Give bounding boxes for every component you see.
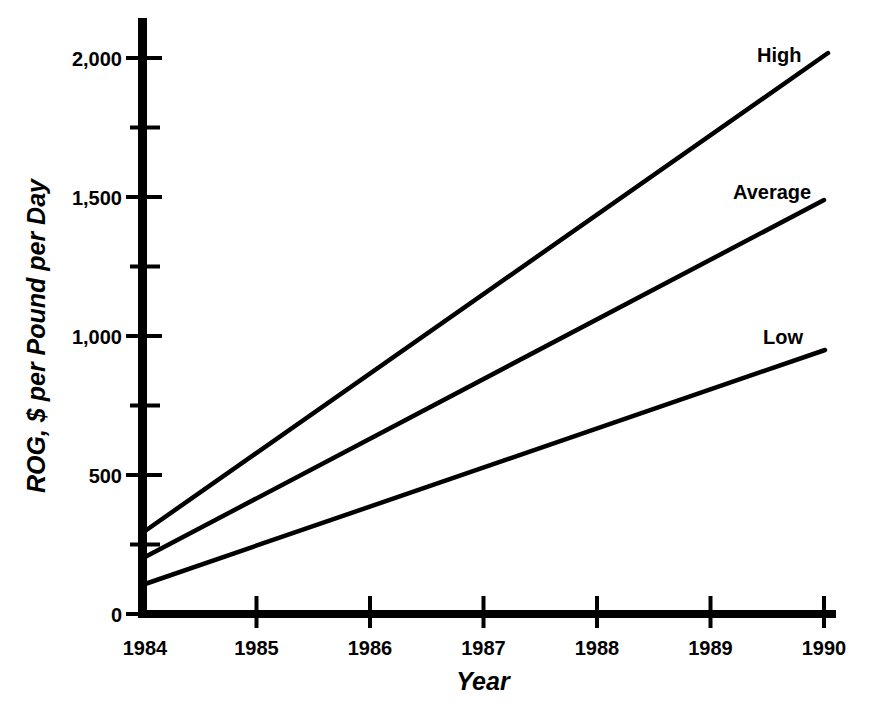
x-axis-title: Year	[456, 667, 511, 695]
x-tick-label-1987: 1987	[461, 637, 506, 659]
x-axis-line	[138, 610, 836, 618]
series-label-low: Low	[763, 326, 803, 348]
y-tick-label-1500: 1,500	[72, 187, 122, 209]
series-line-low	[145, 350, 825, 584]
series-label-average: Average	[733, 181, 811, 203]
y-axis-title: ROG, $ per Pound per Day	[22, 178, 50, 493]
y-axis-line	[138, 18, 147, 617]
x-tick-label-1984: 1984	[123, 637, 168, 659]
x-tick-label-1989: 1989	[688, 637, 733, 659]
chart-container: 2,000 1,500 1,000 500 0 1984 1985 1986 1…	[0, 0, 874, 710]
x-tick-label-1988: 1988	[575, 637, 620, 659]
x-tick-label-1986: 1986	[348, 637, 393, 659]
series-line-average	[145, 200, 824, 557]
x-tick-label-1990: 1990	[802, 637, 847, 659]
y-tick-label-1000: 1,000	[72, 326, 122, 348]
series-label-high: High	[757, 44, 801, 66]
y-tick-label-0: 0	[111, 604, 122, 626]
y-tick-label-2000: 2,000	[72, 48, 122, 70]
x-tick-label-1985: 1985	[234, 637, 279, 659]
y-tick-label-500: 500	[89, 465, 122, 487]
line-chart: 2,000 1,500 1,000 500 0 1984 1985 1986 1…	[0, 0, 874, 710]
series-line-high	[145, 53, 828, 531]
